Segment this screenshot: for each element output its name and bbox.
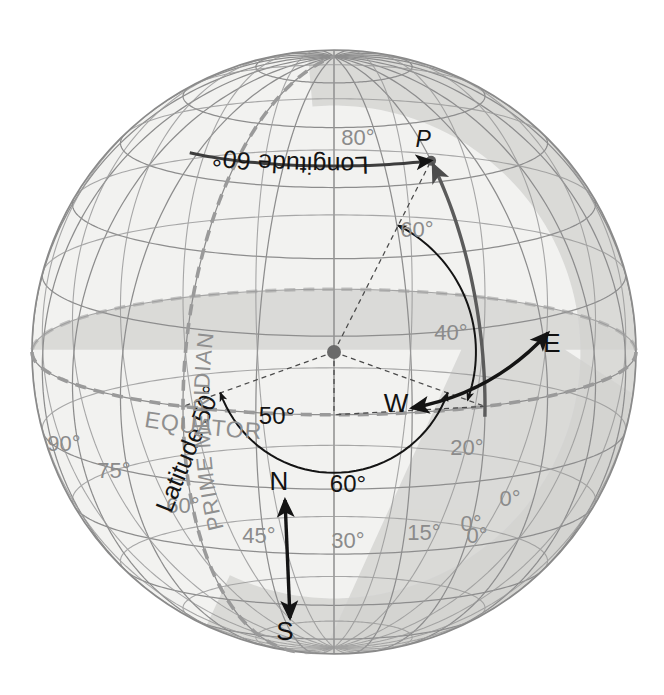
longitude-tick-label: 30°	[331, 528, 364, 553]
globe-diagram-figure: 80°60°40°20°0°90°75°60°45°30°15°0°0° P L…	[0, 0, 664, 695]
longitude-tick-label: 15°	[407, 520, 440, 545]
longitude-tick-label: 75°	[97, 458, 130, 483]
label-compass-west: W	[384, 388, 409, 418]
label-point-p: P	[415, 126, 431, 152]
longitude-tick-label: 45°	[242, 523, 275, 548]
globe-centre-dot	[327, 345, 341, 359]
longitude-tick-label: 90°	[47, 431, 80, 456]
latitude-tick-label: 60°	[400, 217, 433, 242]
label-longitude-angle: 60°	[330, 470, 366, 497]
globe-svg-canvas: 80°60°40°20°0°90°75°60°45°30°15°0°0° P L…	[0, 0, 664, 695]
label-latitude-angle: 50°	[259, 402, 295, 429]
label-compass-south: S	[276, 616, 293, 646]
latitude-tick-label: 80°	[341, 125, 374, 150]
label-compass-east: E	[543, 328, 560, 358]
latitude-tick-label: 20°	[450, 435, 483, 460]
longitude-tick-label: 0°	[466, 523, 487, 548]
latitude-tick-label: 40°	[434, 320, 467, 345]
label-compass-north: N	[270, 466, 289, 496]
longitude-zero-tick-label: 0°	[499, 486, 520, 511]
